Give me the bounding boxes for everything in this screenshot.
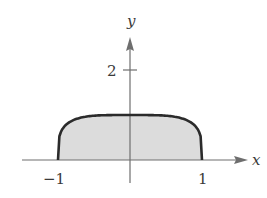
y-axis-arrow-icon [126,37,134,51]
x-axis-arrow-icon [234,156,248,164]
x-tick-label-1: 1 [198,170,208,188]
chart-canvas: y x 2 −1 1 [0,0,267,198]
y-tick-label-2: 2 [107,62,117,80]
y-axis-label: y [126,12,136,30]
x-axis-label: x [252,151,261,169]
x-tick-label-neg1: −1 [43,170,65,188]
